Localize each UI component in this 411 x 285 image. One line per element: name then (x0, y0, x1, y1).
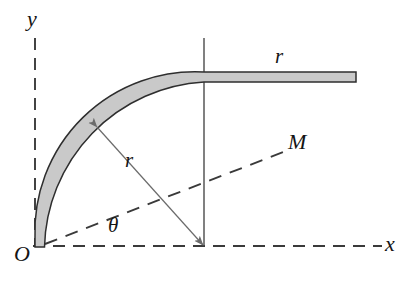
center-of-mass-ray (45, 151, 286, 244)
radius-top-label: r (275, 46, 283, 67)
center-of-mass-label: M (288, 131, 306, 153)
curved-rod (35, 72, 356, 247)
diagram-canvas (0, 0, 411, 285)
origin-label: O (14, 243, 30, 265)
figure-root: y x O r r M θ (0, 0, 411, 285)
y-axis-label: y (27, 8, 37, 30)
x-axis-label: x (385, 233, 395, 255)
radius-arrow-label: r (125, 150, 133, 171)
angle-theta-label: θ (108, 215, 118, 236)
